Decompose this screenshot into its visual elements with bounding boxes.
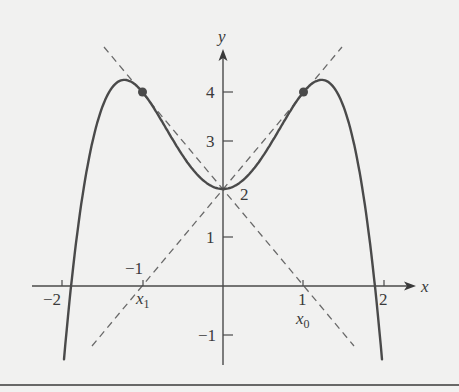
x-tick-label-neg2: −2 (43, 290, 61, 309)
point-left-tangency (138, 88, 147, 97)
function-diagram: y x −2 −1 1 2 4 3 2 1 −1 x1 x0 (0, 0, 459, 392)
x0-annotation: x0 (295, 309, 310, 331)
x1-annotation: x1 (135, 289, 150, 311)
y-tick-label-4: 4 (206, 83, 215, 102)
y-ticks (223, 92, 233, 335)
y-tick-label-2: 2 (240, 185, 249, 204)
y-tick-label-1: 1 (206, 228, 215, 247)
y-axis-label: y (216, 27, 226, 46)
x-tick-label-neg1: −1 (125, 259, 143, 278)
y-tick-label-3: 3 (206, 132, 215, 151)
x-tick-label-1: 1 (298, 290, 307, 309)
y-tick-label-neg1: −1 (198, 326, 216, 345)
x-axis-label: x (420, 277, 429, 296)
x-tick-label-2: 2 (379, 290, 388, 309)
point-right-tangency (299, 88, 308, 97)
